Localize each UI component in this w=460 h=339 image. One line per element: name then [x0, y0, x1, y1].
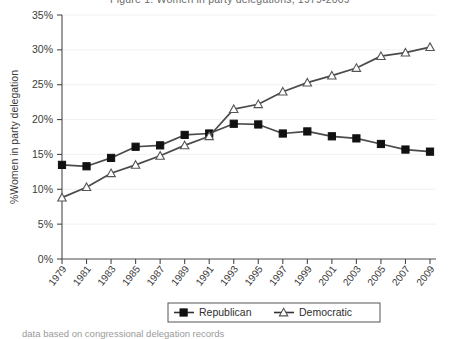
data-point-marker — [107, 154, 114, 161]
data-point-marker — [58, 161, 65, 168]
x-tick-label: 1979 — [46, 263, 69, 288]
x-tick-label: 1993 — [218, 263, 241, 288]
y-tick-label: 5% — [38, 218, 53, 230]
x-tick-label: 1985 — [120, 263, 143, 288]
x-tick-label: 2003 — [341, 263, 364, 288]
x-tick-label: 1995 — [242, 263, 265, 288]
legend-label-democratic[interactable]: Democratic — [299, 306, 352, 318]
data-series-group — [58, 43, 434, 201]
data-point-marker — [328, 133, 335, 140]
data-point-marker — [402, 146, 409, 153]
data-point-marker — [230, 120, 237, 127]
data-point-marker — [279, 130, 286, 137]
y-tick-label: 0% — [38, 253, 53, 265]
x-tick-label: 2001 — [316, 263, 339, 288]
data-point-marker — [83, 163, 90, 170]
y-tick-label: 35% — [32, 9, 53, 21]
data-point-marker — [304, 128, 311, 135]
data-point-marker — [426, 148, 433, 155]
series-republican — [58, 120, 433, 170]
y-axis-title: %Women in party delegation — [8, 70, 20, 204]
data-point-marker — [82, 183, 90, 191]
x-tick-label: 1987 — [144, 263, 167, 288]
x-tick-label: 1983 — [95, 263, 118, 288]
gridlines-group — [62, 15, 436, 224]
chart-legend: RepublicanDemocratic — [168, 303, 380, 322]
x-tick-label: 2005 — [365, 263, 388, 288]
x-tick-label: 1997 — [267, 263, 290, 288]
data-point-marker — [353, 135, 360, 142]
x-tick-label: 1989 — [169, 263, 192, 288]
series-democratic — [58, 43, 434, 201]
legend-marker-filled-square — [180, 309, 187, 316]
series-line — [62, 47, 430, 198]
y-axis-ticks-group: 0%5%10%15%20%25%30%35% — [32, 9, 62, 265]
x-tick-label: 1999 — [292, 263, 315, 288]
y-tick-label: 20% — [32, 113, 53, 125]
x-tick-label: 1981 — [71, 263, 94, 288]
data-point-marker — [157, 142, 164, 149]
data-point-marker — [254, 100, 262, 108]
data-point-marker — [377, 140, 384, 147]
data-point-marker — [352, 64, 360, 72]
y-tick-label: 15% — [32, 148, 53, 160]
y-tick-label: 25% — [32, 78, 53, 90]
x-axis-ticks-group: 1979198119831985198719891991199319951997… — [46, 259, 437, 288]
data-point-marker — [181, 131, 188, 138]
x-tick-label: 2009 — [414, 263, 437, 288]
data-point-marker — [255, 121, 262, 128]
figure-caption-fragment: data based on congressional delegation r… — [0, 328, 460, 339]
data-point-marker — [426, 43, 434, 51]
legend-label-republican[interactable]: Republican — [199, 306, 252, 318]
data-point-marker — [132, 143, 139, 150]
x-tick-label: 1991 — [193, 263, 216, 288]
y-tick-label: 10% — [32, 183, 53, 195]
x-tick-label: 2007 — [390, 263, 413, 288]
y-tick-label: 30% — [32, 43, 53, 55]
series-line — [62, 124, 430, 167]
figure-title-fragment: Figure 1. Women in party delegations, 19… — [0, 0, 460, 5]
